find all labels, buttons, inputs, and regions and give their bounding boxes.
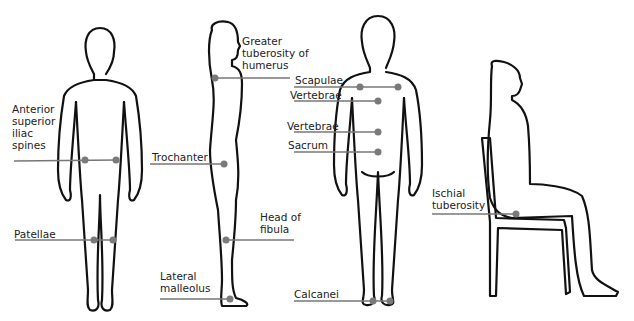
label-lateral-malleolus: Lateral malleolus [160, 270, 210, 294]
label-trochanter: Trochanter [152, 151, 208, 163]
back-standing-figure [294, 16, 422, 305]
label-sacrum: Sacrum [288, 139, 328, 151]
label-vertebrae-upper: Vertebrae [290, 89, 342, 101]
label-ischial-tuberosity: Ischial tuberosity [432, 187, 485, 211]
seated-figure [432, 61, 618, 296]
front-standing-figure [14, 28, 142, 311]
label-calcanei: Calcanei [294, 288, 339, 300]
label-head-of-fibula: Head of fibula [260, 211, 301, 235]
anatomical-landmarks-diagram [0, 0, 634, 321]
label-patellae: Patellae [14, 228, 56, 240]
label-anterior-superior-iliac-spines: Anterior superior iliac spines [12, 103, 55, 151]
label-greater-tuberosity-of-humerus: Greater tuberosity of humerus [242, 35, 309, 71]
label-scapulae: Scapulae [295, 74, 343, 86]
label-vertebrae-lower: Vertebrae [287, 120, 339, 132]
